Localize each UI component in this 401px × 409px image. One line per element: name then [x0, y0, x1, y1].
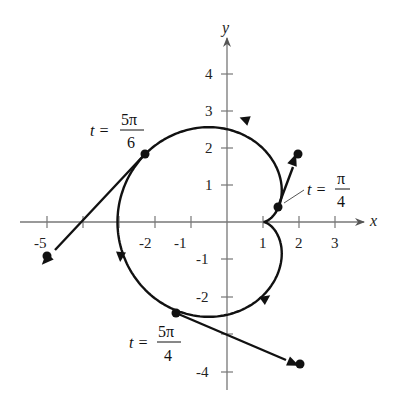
y-tick-labels: 4 3 2 1 -1 -2 -4: [196, 66, 213, 380]
point-t-5pi-4: [172, 309, 181, 318]
y-tick-label: 2: [205, 140, 213, 156]
label-text: t =: [307, 181, 326, 198]
label-text: t =: [90, 122, 109, 139]
x-axis-label: x: [369, 212, 377, 229]
label-t-pi-4: t = π 4: [307, 170, 350, 210]
label-denominator: 4: [337, 193, 345, 210]
x-tick-labels: -5 -2 -1 1 2 3: [34, 235, 339, 251]
label-numerator: 5π: [158, 323, 174, 340]
y-tick-label: -1: [196, 251, 209, 267]
point-t-5pi-6: [141, 150, 150, 159]
label-denominator: 6: [127, 134, 135, 151]
point-t-pi-4: [274, 203, 283, 212]
x-tick-label: -2: [139, 235, 152, 251]
x-tick-label: -5: [34, 235, 47, 251]
direction-arrows: [115, 113, 273, 305]
y-tick-label: 3: [205, 103, 213, 119]
label-numerator: π: [337, 170, 345, 187]
y-tick-label: 1: [205, 177, 213, 193]
x-tick-label: -1: [174, 235, 187, 251]
x-tick-label: 3: [331, 235, 339, 251]
y-tick-label: 4: [205, 66, 213, 82]
y-tick-label: -2: [196, 289, 209, 305]
tangent-end-dot: [294, 150, 303, 159]
leader-line: [284, 190, 304, 203]
y-axis-label: y: [220, 19, 230, 37]
y-tick-label: -4: [196, 364, 209, 380]
tangent-end-dot: [43, 252, 52, 261]
x-tick-label: 2: [295, 235, 303, 251]
parametric-plot: -5 -2 -1 1 2 3 4 3 2 1 -1 -2 -4 x y: [0, 0, 401, 409]
curve-direction-arrow-icon: [238, 113, 251, 126]
label-t-5pi-6: t = 5π 6: [90, 111, 144, 151]
x-tick-label: 1: [259, 235, 267, 251]
tangent-end-dot: [296, 360, 305, 369]
label-text: t =: [129, 334, 148, 351]
label-numerator: 5π: [121, 111, 137, 128]
label-denominator: 4: [164, 347, 172, 364]
label-t-5pi-4: t = 5π 4: [129, 323, 181, 364]
